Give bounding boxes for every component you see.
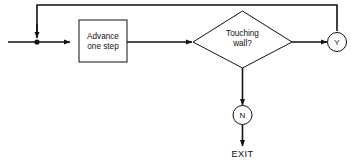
- yes-badge: Y: [328, 33, 347, 52]
- no-badge: N: [233, 106, 252, 125]
- no-badge-label: N: [240, 111, 246, 120]
- yes-badge-label: Y: [334, 38, 340, 47]
- process-label-line2: one step: [87, 42, 119, 51]
- entry-connector: [8, 39, 70, 44]
- decision-label-line1: Touching: [226, 29, 259, 38]
- exit-label: EXIT: [231, 149, 253, 159]
- flowchart-diagram: Advance one step Touching wall? Y: [0, 0, 360, 164]
- process-label-line1: Advance: [87, 32, 119, 41]
- process-node: Advance one step: [79, 20, 127, 62]
- decision-node: Touching wall?: [193, 11, 292, 68]
- decision-label-line2: wall?: [232, 39, 252, 48]
- flowchart-canvas: Advance one step Touching wall? Y: [0, 0, 360, 164]
- junction-dot-icon: [34, 39, 39, 44]
